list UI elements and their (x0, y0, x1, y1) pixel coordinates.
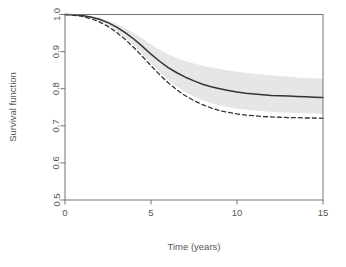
x-tick-label: 10 (232, 207, 243, 218)
survival-plot-figure: 051015 0.50.60.70.80.91.0 Time (years) S… (0, 0, 346, 267)
survival-plot-canvas: 051015 0.50.60.70.80.91.0 Time (years) S… (0, 0, 346, 267)
x-tick-label: 0 (62, 207, 67, 218)
y-tick-label: 0.7 (51, 119, 62, 132)
y-tick-label: 1.0 (51, 8, 62, 21)
x-tick-label: 5 (148, 207, 153, 218)
y-tick-label: 0.8 (51, 82, 62, 95)
y-tick-label: 0.6 (51, 156, 62, 169)
figure-background (0, 0, 346, 267)
y-tick-label: 0.9 (51, 45, 62, 58)
y-tick-label: 0.5 (51, 193, 62, 206)
x-axis-label: Time (years) (168, 241, 221, 252)
x-tick-label: 15 (318, 207, 329, 218)
y-axis-label: Survival function (7, 72, 18, 142)
